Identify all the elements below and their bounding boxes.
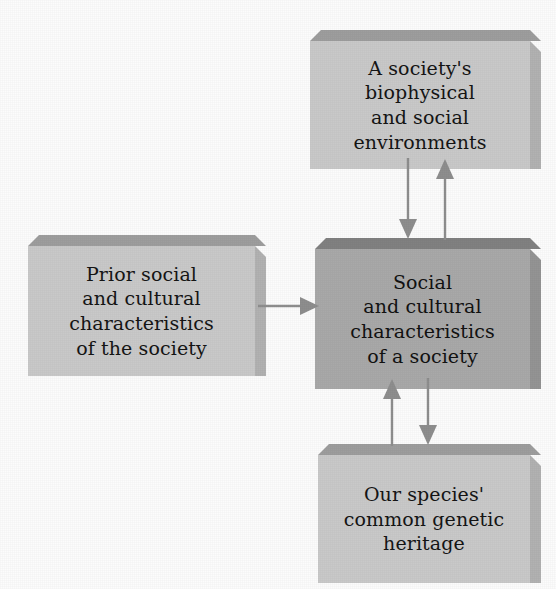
arrow-prior-to-central <box>258 295 320 317</box>
environments-box-front-face: A society's biophysical and social envir… <box>310 41 530 169</box>
central-characteristics-box: Social and cultural characteristics of a… <box>315 238 541 389</box>
diagram-canvas: A society's biophysical and social envir… <box>0 0 556 589</box>
arrow-heritage-to-central <box>381 378 403 446</box>
central-characteristics-box-side-face <box>530 249 541 389</box>
prior-characteristics-box-front-face: Prior social and cultural characteristic… <box>28 246 255 376</box>
arrow-central-to-heritage <box>417 378 439 446</box>
genetic-heritage-box: Our species' common genetic heritage <box>318 444 541 583</box>
environments-box-top-face <box>310 30 541 41</box>
prior-characteristics-box-label: Prior social and cultural characteristic… <box>69 262 214 361</box>
central-characteristics-box-label: Social and cultural characteristics of a… <box>350 270 495 369</box>
environments-box: A society's biophysical and social envir… <box>310 30 541 169</box>
prior-characteristics-box: Prior social and cultural characteristic… <box>28 235 266 376</box>
genetic-heritage-box-front-face: Our species' common genetic heritage <box>318 455 530 583</box>
genetic-heritage-box-label: Our species' common genetic heritage <box>344 482 504 556</box>
environments-box-label: A society's biophysical and social envir… <box>353 56 486 155</box>
environments-box-side-face <box>530 41 541 169</box>
arrow-central-to-environments <box>434 158 456 240</box>
prior-characteristics-box-top-face <box>28 235 266 246</box>
genetic-heritage-box-side-face <box>530 455 541 583</box>
central-characteristics-box-front-face: Social and cultural characteristics of a… <box>315 249 530 389</box>
central-characteristics-box-top-face <box>315 238 541 249</box>
arrow-environments-to-central <box>397 158 419 240</box>
